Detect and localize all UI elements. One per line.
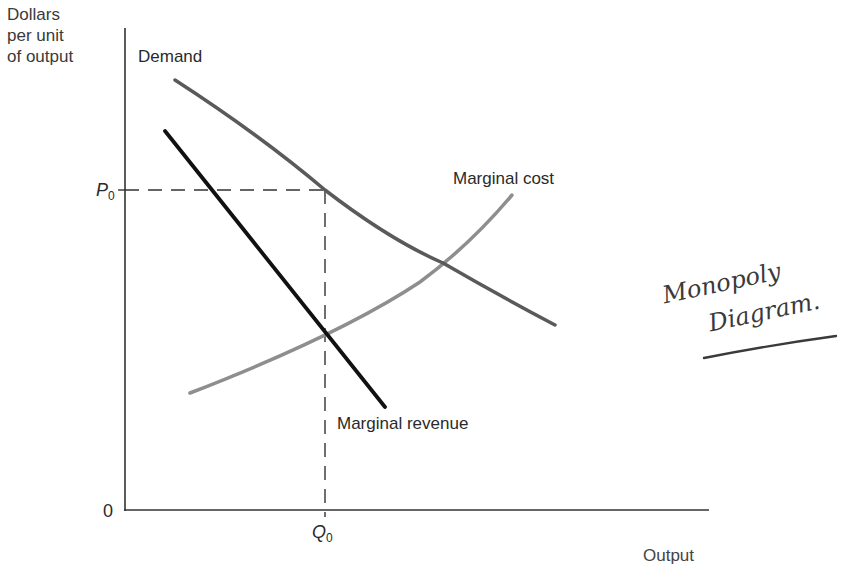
demand-label: Demand (138, 46, 202, 68)
p0-main: P (96, 180, 108, 200)
marginal-revenue-label: Marginal revenue (337, 413, 468, 435)
q0-main: Q (312, 522, 326, 542)
origin-label: 0 (103, 500, 113, 522)
handwritten-underline (704, 336, 836, 358)
x-axis-label: Output (643, 545, 694, 567)
q0-tick-label: Q0 (312, 521, 333, 549)
y-axis-label-line-1: Dollars (7, 4, 73, 25)
y-axis-label-line-2: per unit (7, 25, 73, 46)
p0-tick-label: P0 (96, 179, 115, 207)
marginal-cost-label: Marginal cost (453, 168, 554, 190)
demand-curve (175, 80, 555, 325)
y-axis-label-line-3: of output (7, 46, 73, 67)
q0-subscript: 0 (326, 531, 333, 545)
y-axis-label: Dollars per unit of output (7, 4, 73, 67)
marginal-revenue-curve (165, 131, 385, 407)
p0-subscript: 0 (108, 189, 115, 203)
